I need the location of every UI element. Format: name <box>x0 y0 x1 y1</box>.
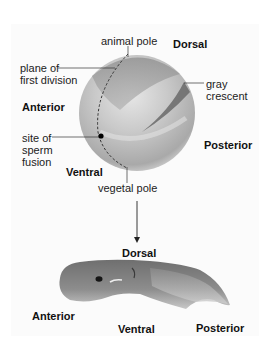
label-plane-line2: first division <box>20 74 77 86</box>
label-gray-line1: gray <box>206 78 227 90</box>
label-tadpole-ventral: Ventral <box>118 323 155 335</box>
development-arrow <box>134 201 140 243</box>
diagram-artwork <box>0 0 269 359</box>
label-tadpole-posterior: Posterior <box>196 322 244 334</box>
sperm-fusion-dot <box>98 133 103 138</box>
label-sperm-line2: sperm <box>22 144 53 156</box>
label-egg-dorsal: Dorsal <box>173 38 207 50</box>
label-plane-line1: plane of <box>20 62 59 74</box>
label-egg-posterior: Posterior <box>204 139 252 151</box>
tadpole-eye <box>96 276 103 282</box>
label-sperm-line1: site of <box>22 132 51 144</box>
tadpole <box>59 260 230 309</box>
label-tadpole-anterior: Anterior <box>32 310 75 322</box>
label-sperm-line3: fusion <box>22 156 51 168</box>
label-egg-ventral: Ventral <box>66 166 103 178</box>
egg <box>79 54 195 171</box>
label-vegetal-pole: vegetal pole <box>98 182 157 194</box>
label-gray-line2: crescent <box>206 90 248 102</box>
label-egg-anterior: Anterior <box>22 101 65 113</box>
label-tadpole-dorsal: Dorsal <box>122 247 156 259</box>
label-animal-pole: animal pole <box>101 35 157 47</box>
